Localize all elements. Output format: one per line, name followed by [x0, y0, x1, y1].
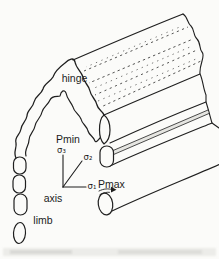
fold-far-edge [183, 14, 219, 128]
stress-axes-icon [63, 155, 86, 187]
thin-layer-shading [112, 110, 209, 155]
right-limb-boudin-chain [97, 115, 114, 216]
fold-diagram: hinge Pmin σ₃ σ₂ σ₁ Pmax axis limb [0, 0, 219, 259]
pmax-label: Pmax [98, 178, 126, 190]
sigma3-label: σ₃ [57, 145, 66, 155]
sigma1-label: σ₁ [88, 181, 97, 191]
limb-label: limb [33, 214, 52, 226]
left-limb-boudin-chain [13, 157, 27, 244]
lineation-dashes-icon [84, 26, 201, 107]
fold-crest-ridge [73, 14, 183, 60]
axis-label: axis [44, 192, 63, 204]
sigma2-label: σ₂ [84, 152, 93, 162]
scan-artifact [3, 248, 216, 256]
hinge-label: hinge [62, 72, 88, 84]
layer-edge-lines [104, 74, 219, 211]
pmin-label: Pmin [56, 133, 80, 145]
